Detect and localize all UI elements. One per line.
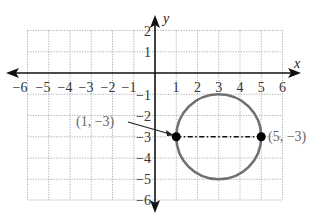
x-axis-label: x — [293, 56, 301, 71]
x-tick: 6 — [279, 80, 286, 95]
x-tick: 5 — [258, 80, 265, 95]
y-tick-labels: 2 1 −1 −2 −3 −4 −5 −6 — [136, 24, 151, 208]
x-tick: −6 — [13, 80, 28, 95]
y-axis — [150, 15, 160, 213]
x-tick: −3 — [79, 80, 94, 95]
point-b-marker — [257, 132, 266, 141]
coordinate-plane-chart: x y −6 −5 −4 −3 −2 −1 1 2 3 4 5 6 2 1 −1… — [0, 0, 321, 219]
y-tick: 1 — [144, 45, 151, 60]
point-a-marker — [172, 132, 181, 141]
x-tick: 4 — [237, 80, 244, 95]
x-tick: −1 — [122, 80, 137, 95]
x-axis — [6, 68, 301, 78]
x-tick: 1 — [173, 80, 180, 95]
y-tick: −2 — [136, 109, 151, 124]
y-tick: 2 — [144, 24, 151, 39]
x-tick: −4 — [58, 80, 73, 95]
y-tick: −1 — [136, 88, 151, 103]
x-tick: −2 — [101, 80, 116, 95]
x-tick: 3 — [215, 80, 222, 95]
point-b-label: (5, −3) — [268, 129, 307, 145]
x-tick: −5 — [36, 80, 51, 95]
y-tick: −3 — [136, 130, 151, 145]
y-axis-label: y — [161, 11, 170, 26]
x-tick: 2 — [194, 80, 201, 95]
y-tick: −6 — [136, 193, 151, 208]
y-tick: −5 — [136, 172, 151, 187]
point-a-label: (1, −3) — [76, 114, 115, 130]
y-tick: −4 — [136, 151, 151, 166]
